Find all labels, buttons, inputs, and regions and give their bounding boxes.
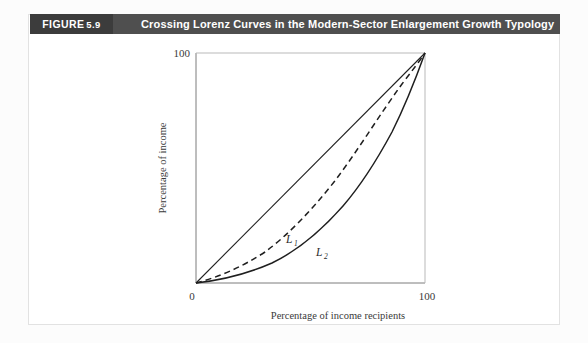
figure-number-block: FIGURE5.9 [30,14,113,34]
curve-label-l1-subscript: 1 [294,239,298,248]
chart-plot-area: 100 0 100 Percentage of income recipient… [28,34,560,325]
figure-tag-word: FIGURE [42,18,84,30]
curve-label-l1: L [285,233,292,245]
y-axis-tick-100: 100 [174,47,191,59]
figure-header-bar: FIGURE5.9 Crossing Lorenz Curves in the … [30,14,560,34]
x-axis-tick-100: 100 [419,290,436,302]
curve-label-l2: L [315,246,322,258]
x-axis-tick-0: 0 [189,290,195,302]
x-axis-title: Percentage of income recipients [271,310,405,321]
line-of-equality [196,53,425,283]
figure-tag-number: 5.9 [84,19,100,30]
y-axis-title: Percentage of income [157,122,168,213]
figure-title: Crossing Lorenz Curves in the Modern-Sec… [113,14,560,34]
curve-label-l2-subscript: 2 [324,252,328,261]
lorenz-curve-chart: 100 0 100 Percentage of income recipient… [28,34,560,325]
